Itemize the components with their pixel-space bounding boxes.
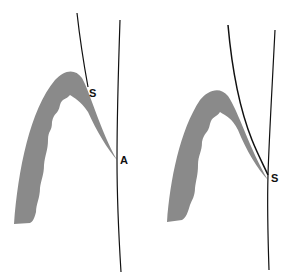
- left-straight-line: [117, 20, 121, 272]
- diagram-canvas: S A S: [0, 0, 286, 279]
- label-s-left: S: [89, 87, 96, 99]
- right-panel: S: [167, 25, 278, 270]
- right-curve-line: [228, 25, 268, 175]
- label-a: A: [120, 154, 128, 166]
- right-gray-shape: [167, 90, 268, 222]
- left-gray-shape: [14, 71, 117, 224]
- right-straight-line: [268, 30, 275, 270]
- left-panel: S A: [14, 13, 128, 272]
- label-s-right: S: [271, 172, 278, 184]
